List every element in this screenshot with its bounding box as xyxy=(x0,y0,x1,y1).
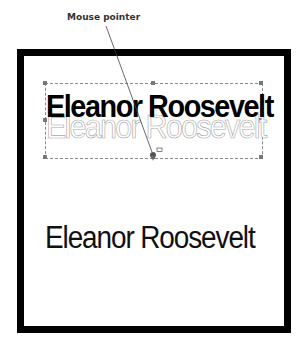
pointer-overlay xyxy=(0,0,304,352)
callout-leader-line xyxy=(106,26,152,152)
mouse-pointer-icon xyxy=(150,152,156,161)
cursor-box-icon xyxy=(157,148,162,152)
